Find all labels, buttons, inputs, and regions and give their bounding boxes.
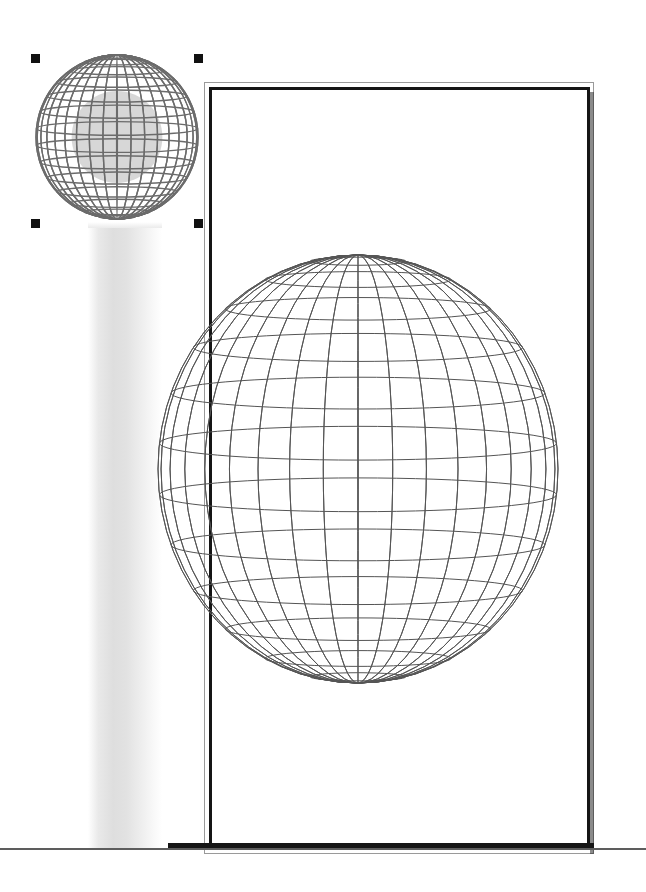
selection-handle-top-right[interactable] [194, 54, 203, 63]
wireframe-globe-large[interactable] [155, 252, 561, 686]
wireframe-globe-small[interactable] [33, 52, 201, 222]
selection-handle-bottom-left[interactable] [31, 219, 40, 228]
document-canvas[interactable] [0, 0, 646, 892]
selection-handle-bottom-right[interactable] [194, 219, 203, 228]
page-bottom-thin-rule [0, 848, 646, 850]
selection-handle-top-left[interactable] [31, 54, 40, 63]
page-frame-shadow [590, 92, 594, 854]
vertical-gradient-band[interactable] [88, 228, 162, 849]
